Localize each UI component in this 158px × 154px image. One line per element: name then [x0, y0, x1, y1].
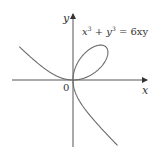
curve-lower-right-branch [73, 80, 118, 145]
curve-loop [73, 45, 108, 80]
folium-plot: y x 0 x3 + y3 = 6xy [0, 0, 158, 154]
y-axis-label: y [62, 12, 70, 25]
origin-label: 0 [63, 82, 69, 93]
equation-label: x3 + y3 = 6xy [82, 25, 148, 37]
curve-upper-left-branch [19, 47, 73, 80]
x-axis-label: x [142, 84, 149, 97]
